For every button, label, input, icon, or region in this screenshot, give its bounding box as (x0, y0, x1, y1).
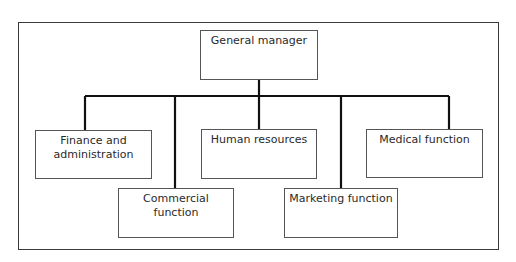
node-human-resources: Human resources (201, 129, 317, 179)
node-marketing-function: Marketing function (284, 188, 398, 238)
node-finance-and-administration: Finance and administration (35, 130, 152, 179)
node-label-line2: administration (36, 148, 151, 162)
node-commercial-function: Commercial function (118, 188, 234, 238)
node-label: Commercial function (143, 192, 209, 219)
node-general-manager: General manager (200, 30, 318, 80)
node-label: Marketing function (289, 192, 392, 205)
node-label: Medical function (379, 133, 470, 146)
node-label-line1: Finance and (36, 134, 151, 148)
node-medical-function: Medical function (366, 129, 483, 178)
node-label: Human resources (211, 133, 307, 146)
node-label: General manager (211, 34, 307, 47)
